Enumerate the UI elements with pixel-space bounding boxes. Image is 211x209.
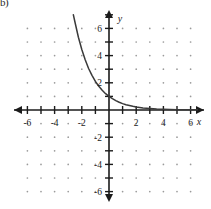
grid-dot [54,28,56,30]
grid-dot [190,191,192,193]
grid-dot [40,191,42,193]
grid-dot [27,136,29,138]
grid-dot [54,150,56,152]
grid-dot [81,164,83,166]
grid-dot [163,136,165,138]
grid-dot [176,177,178,179]
y-tick-label: -4 [94,160,102,170]
y-axis-label: y [117,13,123,24]
y-tick-label: 2 [97,78,102,88]
grid-dot [163,96,165,98]
grid-dot [27,82,29,84]
grid-dot [176,150,178,152]
y-axis-up-arrow-icon [105,10,113,18]
grid-dot [122,96,124,98]
x-tick-label: -6 [23,118,31,128]
grid-dot [122,28,124,30]
grid-dot [190,68,192,70]
grid-dot [135,164,137,166]
grid-dot [149,96,151,98]
grid-dot [54,191,56,193]
grid-dot [190,41,192,43]
grid-dot [40,28,42,30]
grid-dot [149,191,151,193]
grid-dot [40,123,42,125]
grid-dot [40,41,42,43]
grid-dot [122,123,124,125]
grid-dot [135,191,137,193]
grid-dot [67,55,69,57]
grid-dot [176,28,178,30]
grid-dot [135,55,137,57]
grid-dot [40,136,42,138]
grid-dot [135,82,137,84]
grid-dot [27,177,29,179]
grid-dot [54,68,56,70]
x-tick-label: 4 [161,118,166,128]
grid-dot [135,68,137,70]
grid-dot [149,123,151,125]
grid-dot [27,68,29,70]
grid-dot [81,41,83,43]
grid-dot [190,55,192,57]
grid-dot [95,123,97,125]
grid-dot [54,164,56,166]
grid-dot [163,28,165,30]
x-tick-label: 6 [188,118,193,128]
grid-dot [67,150,69,152]
grid-dot [95,150,97,152]
grid-dot [135,136,137,138]
grid-dot [163,68,165,70]
grid-dot [54,41,56,43]
grid-dot [176,55,178,57]
grid-dot [95,96,97,98]
grid-dot [176,96,178,98]
grid-dot [122,177,124,179]
y-axis-down-arrow-icon [105,194,113,202]
grid-dot [81,82,83,84]
exponential-decay-curve [73,15,197,110]
grid-dot [190,150,192,152]
grid-dot [67,136,69,138]
y-tick-label: -6 [94,187,102,197]
x-axis-label: x [196,116,202,127]
grid-dot [163,82,165,84]
grid-dot [163,177,165,179]
grid-dot [54,96,56,98]
grid-dot [81,177,83,179]
grid-dot [149,150,151,152]
grid-dot [81,28,83,30]
grid-dot [176,123,178,125]
x-tick-label: -2 [78,118,86,128]
grid-dot [95,41,97,43]
grid-dot [176,82,178,84]
grid-dot [27,150,29,152]
grid-dot [67,41,69,43]
grid-dot [81,68,83,70]
grid-dot [95,55,97,57]
grid-dot [27,28,29,30]
grid-dot [149,55,151,57]
x-tick-label: 2 [134,118,139,128]
grid-dot [27,55,29,57]
grid-dot [95,68,97,70]
grid-dot [67,177,69,179]
graph-figure: b) -6-4-2246642-2-4-6 y x [0,0,211,209]
grid-dot [95,28,97,30]
grid-dot [163,150,165,152]
grid-dot [149,28,151,30]
grid-dot [40,55,42,57]
grid-dot [122,164,124,166]
grid-dot [67,164,69,166]
grid-dot [81,191,83,193]
coordinate-plane: -6-4-2246642-2-4-6 y x [0,0,211,209]
grid-dot [27,96,29,98]
grid-dot [81,150,83,152]
grid-dot [176,136,178,138]
grid-dot [176,191,178,193]
grid-dot [54,55,56,57]
grid-dot [122,136,124,138]
grid-dot [135,150,137,152]
grid-dot [163,41,165,43]
grid-dot [149,82,151,84]
